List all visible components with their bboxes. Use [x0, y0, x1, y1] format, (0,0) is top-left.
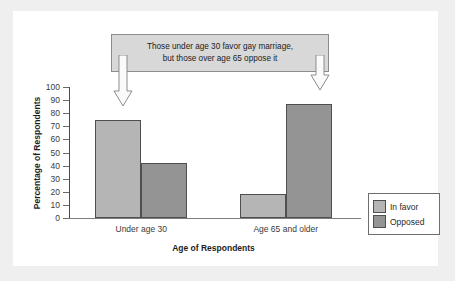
y-axis-tick [63, 100, 69, 101]
y-axis-tick [63, 126, 69, 127]
y-axis-tick-label: 0 [55, 213, 60, 223]
y-axis-title: Percentage of Respondents [31, 87, 43, 218]
y-axis-line [69, 87, 70, 218]
bar-in-favor [95, 120, 141, 218]
bar-opposed [286, 104, 332, 218]
legend-item-label: In favor [390, 202, 418, 212]
legend-swatch-icon [373, 215, 386, 228]
chart-panel: Percentage of Respondents 01020304050607… [13, 11, 438, 266]
y-axis-tick [63, 153, 69, 154]
y-axis-tick-label: 80 [51, 108, 60, 118]
annotation-arrow-left-icon [113, 55, 133, 107]
y-axis-tick [63, 179, 69, 180]
x-axis-category-label: Age 65 and older [253, 224, 318, 234]
y-axis-title-text: Percentage of Respondents [32, 96, 42, 208]
annotation-line-1: Those under age 30 favor gay marriage, [118, 41, 322, 53]
y-axis-tick [63, 166, 69, 167]
y-axis-tick-label: 100 [46, 82, 60, 92]
y-axis-tick [63, 87, 69, 88]
y-axis-tick-label: 60 [51, 134, 60, 144]
annotation-line-2: but those over age 65 oppose it [118, 53, 322, 65]
bar-in-favor [240, 194, 286, 218]
annotation-callout: Those under age 30 favor gay marriage, b… [111, 34, 329, 72]
legend-item[interactable]: In favor [373, 200, 435, 213]
y-axis-tick-label: 70 [51, 121, 60, 131]
y-axis-tick [63, 113, 69, 114]
legend-swatch-icon [373, 200, 386, 213]
y-axis-tick-label: 90 [51, 95, 60, 105]
y-axis-tick [63, 192, 69, 193]
y-axis-tick-label: 40 [51, 161, 60, 171]
y-axis-tick [63, 139, 69, 140]
legend-item-label: Opposed [390, 217, 425, 227]
y-axis-tick [63, 218, 69, 219]
y-axis-tick-label: 20 [51, 187, 60, 197]
y-axis-tick [63, 205, 69, 206]
y-axis-tick-label: 10 [51, 200, 60, 210]
x-axis-title: Age of Respondents [69, 243, 358, 253]
annotation-arrow-right-icon [310, 55, 330, 91]
legend-item[interactable]: Opposed [373, 215, 435, 228]
y-axis-tick-label: 50 [51, 148, 60, 158]
bar-opposed [141, 163, 187, 218]
y-axis-tick-label: 30 [51, 174, 60, 184]
chart-page: Percentage of Respondents 01020304050607… [0, 0, 455, 281]
x-axis-category-label: Under age 30 [115, 224, 167, 234]
chart-legend: In favorOpposed [368, 193, 440, 235]
x-axis-line [64, 218, 361, 219]
